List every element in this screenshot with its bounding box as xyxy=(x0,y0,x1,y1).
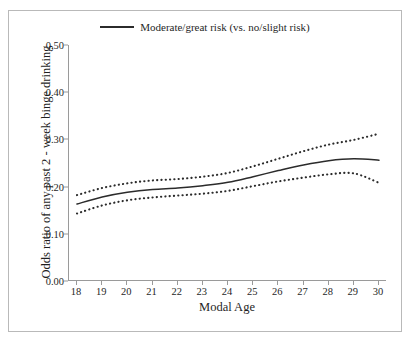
x-tick-label: 30 xyxy=(366,286,390,297)
x-tick-label: 23 xyxy=(190,286,214,297)
x-tick-label: 25 xyxy=(240,286,264,297)
legend-label: Moderate/great risk (vs. no/slight risk) xyxy=(140,21,310,33)
x-tick-label: 22 xyxy=(165,286,189,297)
x-tick-mark xyxy=(328,281,329,285)
legend-line-swatch xyxy=(100,26,134,28)
x-tick-label: 20 xyxy=(114,286,138,297)
x-tick-mark xyxy=(277,281,278,285)
x-tick-mark xyxy=(76,281,77,285)
x-tick-mark xyxy=(101,281,102,285)
chart-lines xyxy=(69,45,387,281)
chart-figure: Moderate/great risk (vs. no/slight risk)… xyxy=(0,0,411,341)
chart-legend: Moderate/great risk (vs. no/slight risk) xyxy=(8,16,402,38)
x-axis-ticks: 18192021222324252627282930 xyxy=(68,281,386,301)
x-tick-label: 27 xyxy=(291,286,315,297)
series-line xyxy=(77,134,379,195)
x-tick-label: 26 xyxy=(265,286,289,297)
x-tick-label: 29 xyxy=(341,286,365,297)
x-tick-label: 18 xyxy=(64,286,88,297)
x-tick-mark xyxy=(227,281,228,285)
x-tick-mark xyxy=(252,281,253,285)
x-axis-label: Modal Age xyxy=(68,300,386,314)
x-tick-mark xyxy=(378,281,379,285)
x-tick-mark xyxy=(126,281,127,285)
x-tick-label: 24 xyxy=(215,286,239,297)
x-tick-mark xyxy=(152,281,153,285)
plot-area xyxy=(68,45,386,281)
x-tick-label: 21 xyxy=(140,286,164,297)
series-line xyxy=(77,159,379,204)
x-tick-mark xyxy=(202,281,203,285)
x-tick-mark xyxy=(177,281,178,285)
x-tick-label: 19 xyxy=(89,286,113,297)
x-tick-mark xyxy=(353,281,354,285)
y-axis-label: Odds ratio of any past 2 - week binge dr… xyxy=(39,44,53,280)
x-tick-label: 28 xyxy=(316,286,340,297)
x-tick-mark xyxy=(303,281,304,285)
